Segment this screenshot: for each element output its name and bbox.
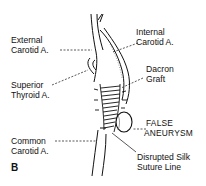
leader-lines — [52, 43, 146, 141]
common-carotid-vessel — [92, 128, 106, 176]
label-superior-thyroid: Superior Thyroid A. — [11, 80, 50, 100]
label-line-2: Suture Line — [137, 162, 190, 172]
label-line-1: Superior — [11, 80, 50, 90]
label-false-aneurysm: FALSE ANEURYSM — [144, 118, 193, 138]
label-line-1: FALSE — [144, 118, 193, 128]
leader-superior-thyroid — [52, 70, 88, 85]
label-line-2: ANEURYSM — [144, 128, 193, 138]
label-line-1: Dacron — [146, 64, 174, 74]
leader-disrupted-suture — [112, 133, 136, 152]
internal-carotid-vessel — [100, 28, 129, 104]
label-line-1: Common — [11, 136, 49, 146]
label-line-2: Carotid A. — [11, 146, 49, 156]
label-line-1: Disrupted Silk — [137, 152, 190, 162]
label-internal-carotid: Internal Carotid A. — [136, 27, 174, 47]
panel-letter: B — [11, 162, 18, 173]
label-line-2: Graft — [146, 74, 174, 84]
label-line-2: Carotid A. — [136, 37, 174, 47]
label-line-1: External — [11, 35, 49, 45]
label-external-carotid: External Carotid A. — [11, 35, 49, 55]
superior-thyroid-vessel — [88, 58, 96, 74]
label-line-2: Carotid A. — [11, 45, 49, 55]
label-common-carotid: Common Carotid A. — [11, 136, 49, 156]
label-disrupted-suture: Disrupted Silk Suture Line — [137, 152, 190, 172]
label-line-2: Thyroid A. — [11, 90, 50, 100]
label-line-1: Internal — [136, 27, 174, 37]
label-dacron-graft: Dacron Graft — [146, 64, 174, 84]
external-carotid-vessel — [91, 14, 103, 82]
